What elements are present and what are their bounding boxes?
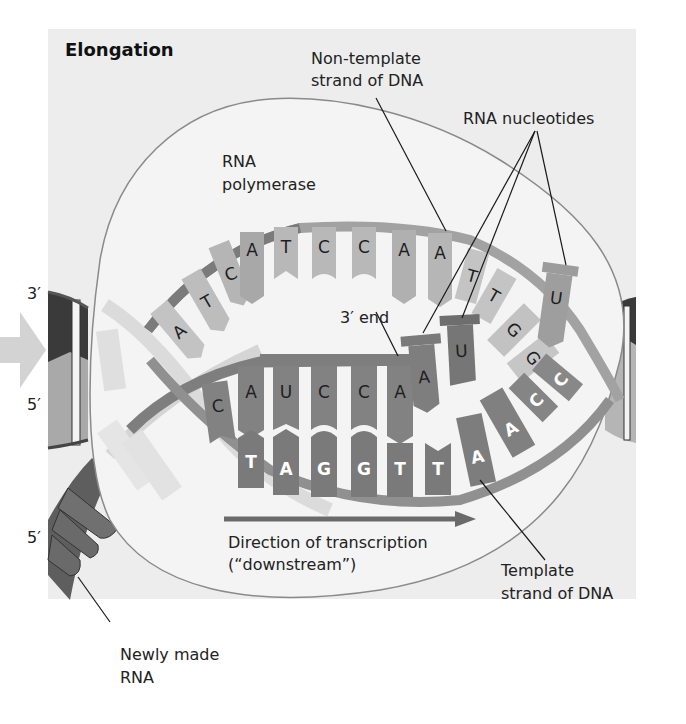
label-rna-nucleotides: RNA nucleotides (463, 109, 594, 128)
svg-text:T: T (280, 237, 292, 257)
svg-text:T: T (245, 452, 257, 472)
svg-text:G: G (317, 459, 331, 479)
elongation-diagram: A T C A T C C A A T T G G C A U C C A T … (0, 0, 686, 724)
svg-text:A: A (398, 240, 410, 260)
svg-text:G: G (357, 459, 371, 479)
left-dna-stub (48, 292, 88, 448)
label-rna-5-prime: 5′ (27, 528, 41, 547)
svg-text:A: A (434, 243, 446, 263)
figure-title: Elongation (65, 39, 174, 60)
svg-text:A: A (246, 240, 258, 260)
label-non-template-1: Non-template (311, 49, 421, 68)
label-non-template-2: strand of DNA (311, 71, 423, 90)
svg-text:T: T (394, 459, 406, 479)
svg-text:C: C (318, 382, 330, 402)
label-direction-2: (“downstream”) (228, 555, 356, 574)
label-newly-made-2: RNA (120, 668, 154, 687)
svg-text:T: T (432, 459, 444, 479)
label-direction-1: Direction of transcription (228, 533, 428, 552)
svg-text:A: A (417, 366, 431, 387)
svg-text:A: A (394, 382, 406, 402)
label-template-1: Template (500, 561, 574, 580)
svg-text:C: C (318, 237, 330, 257)
label-rna-polymerase-2: polymerase (222, 175, 316, 194)
svg-text:U: U (280, 382, 292, 402)
left-entry-arrow (0, 312, 46, 388)
svg-text:A: A (279, 459, 293, 479)
label-left-5-prime: 5′ (27, 395, 41, 414)
svg-text:C: C (358, 237, 370, 257)
svg-text:C: C (358, 382, 370, 402)
label-3-prime-end: 3′ end (340, 308, 389, 327)
label-newly-made-1: Newly made (120, 645, 219, 664)
label-rna-polymerase-1: RNA (222, 152, 256, 171)
label-template-2: strand of DNA (501, 584, 613, 603)
label-left-3-prime: 3′ (27, 284, 41, 303)
svg-text:U: U (455, 341, 468, 362)
svg-text:A: A (245, 382, 257, 402)
